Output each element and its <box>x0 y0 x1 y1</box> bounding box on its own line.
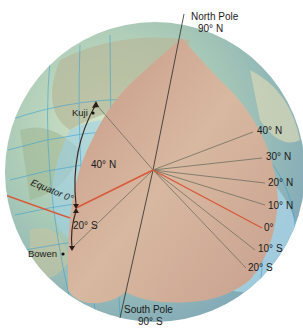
lat-label-30n: 30° N <box>266 151 291 162</box>
lat-label-20s: 20° S <box>248 262 273 273</box>
lat-label-0: 0° <box>264 222 274 233</box>
north-pole-value: 90° N <box>198 23 223 34</box>
arc-label-20s: 20° S <box>73 220 98 231</box>
south-pole-label: South Pole <box>124 304 173 315</box>
kuji-dot <box>91 111 94 114</box>
lat-label-10n: 10° N <box>268 200 293 211</box>
bowen-dot <box>61 252 64 255</box>
globe-latitude-diagram: North Pole 90° N South Pole 90° S Kuji B… <box>0 0 303 331</box>
north-pole-label: North Pole <box>191 11 239 22</box>
city-bowen: Bowen <box>28 248 57 259</box>
south-pole-value: 90° S <box>138 316 163 327</box>
lat-label-40n: 40° N <box>257 125 282 136</box>
city-kuji: Kuji <box>72 107 88 118</box>
arc-label-40n: 40° N <box>91 159 116 170</box>
lat-label-20n: 20° N <box>268 177 293 188</box>
lat-label-10s: 10° S <box>258 243 283 254</box>
